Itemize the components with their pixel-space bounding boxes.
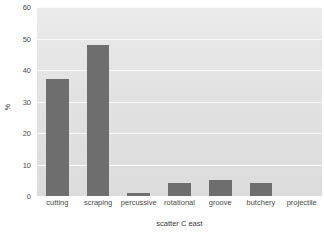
x-axis-tick-label: projectile <box>287 198 317 207</box>
bar <box>168 183 191 196</box>
y-axis-tick-label: 20 <box>23 129 31 138</box>
bar <box>127 193 150 196</box>
x-axis-tick-label: butchery <box>247 198 276 207</box>
x-axis-tick-label: groove <box>209 198 232 207</box>
bar <box>87 45 110 196</box>
y-axis-tick-label: 10 <box>23 160 31 169</box>
x-axis-tick-label: rotational <box>164 198 195 207</box>
y-axis-tick-label: 30 <box>23 97 31 106</box>
y-axis-tick-label: 50 <box>23 34 31 43</box>
bar-chart-figure: % 0102030405060 cuttingscrapingpercussiv… <box>0 0 324 234</box>
bar <box>250 183 273 196</box>
bar <box>46 79 69 196</box>
bar <box>209 180 232 196</box>
y-axis-tick-labels: 0102030405060 <box>12 0 34 234</box>
bar-series <box>37 7 322 196</box>
y-axis-tick-label: 60 <box>23 3 31 12</box>
plot-area <box>37 7 322 196</box>
x-axis-tick-labels: cuttingscrapingpercussiverotationalgroov… <box>37 198 322 212</box>
y-axis-tick-label: 40 <box>23 66 31 75</box>
y-axis-tick-label: 0 <box>27 192 31 201</box>
x-axis-label: scatter C east <box>37 219 322 228</box>
x-axis-tick-label: cutting <box>46 198 68 207</box>
x-axis-tick-label: scraping <box>84 198 112 207</box>
x-axis-tick-label: percussive <box>121 198 157 207</box>
